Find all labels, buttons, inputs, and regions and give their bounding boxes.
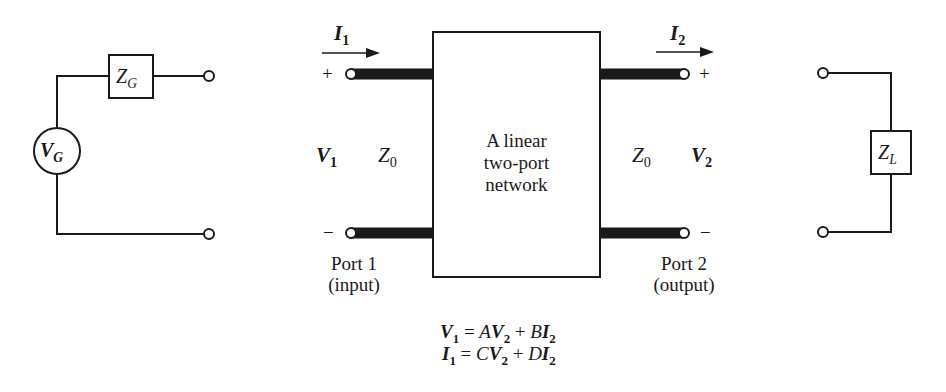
load-top-wire xyxy=(828,73,891,131)
network-text-line2: two-port xyxy=(433,152,600,174)
eq2-plus: + xyxy=(508,343,528,364)
port2-z0-label: Z0 xyxy=(632,145,651,166)
z0-symbol-2: Z xyxy=(632,143,644,167)
port1-plus: + xyxy=(322,64,333,83)
i1-sub: 1 xyxy=(342,32,349,48)
port1-minus: − xyxy=(323,223,334,242)
port2-terminal-top xyxy=(679,69,689,79)
source-terminal-bottom xyxy=(204,229,214,239)
z0-sub-1: 0 xyxy=(390,154,397,170)
port2-label: Port 2 xyxy=(638,253,730,274)
i2-sub: 2 xyxy=(678,32,685,48)
eq2-var-i2-sub: 2 xyxy=(549,353,555,368)
eq2-lhs-sub: 1 xyxy=(449,353,455,368)
source-top-wire xyxy=(57,76,109,128)
source-impedance-label: ZG xyxy=(116,66,137,86)
v2-label: V2 xyxy=(691,145,712,166)
eq1-equals: = xyxy=(459,321,479,342)
two-port-network-diagram: ZG VG I1 + − V1 Z0 Port 1 (input) A line… xyxy=(0,0,946,392)
load-terminal-top xyxy=(818,68,828,78)
eq2-equals: = xyxy=(456,343,476,364)
network-text-line3: network xyxy=(433,174,600,196)
port1-caption: Port 1 (input) xyxy=(314,253,394,295)
network-box-text: A linear two-port network xyxy=(433,130,600,196)
port1-terminal-bottom xyxy=(346,228,356,238)
generator-label: VG xyxy=(40,140,63,160)
zl-sub: L xyxy=(889,152,897,167)
eq2-coef-c: C xyxy=(476,343,489,364)
v1-sub: 1 xyxy=(330,154,337,170)
current-arrow-i2 xyxy=(656,47,714,57)
i1-symbol: I xyxy=(334,21,342,45)
equation-1: V1 = AV2 + BI2 xyxy=(440,322,556,341)
eq1-coef-a: A xyxy=(479,321,491,342)
i2-label: I2 xyxy=(670,23,685,44)
eq1-lhs: V xyxy=(440,321,453,342)
current-arrow-i1 xyxy=(322,48,380,58)
load-impedance-label: ZL xyxy=(878,142,897,162)
port1-label: Port 1 xyxy=(314,253,394,274)
v2-sub: 2 xyxy=(705,154,712,170)
v1-symbol: V xyxy=(316,143,330,167)
load-bottom-wire xyxy=(828,174,891,232)
i2-symbol: I xyxy=(670,21,678,45)
port2-sublabel: (output) xyxy=(638,274,730,295)
i1-label: I1 xyxy=(334,23,349,44)
zl-symbol: Z xyxy=(878,141,889,163)
vg-symbol: V xyxy=(40,139,53,161)
eq2-var-v2: V xyxy=(489,343,502,364)
z0-sub-2: 0 xyxy=(644,154,651,170)
load-circuit xyxy=(818,68,911,237)
port1-sublabel: (input) xyxy=(314,274,394,295)
equation-2: I1 = CV2 + DI2 xyxy=(442,344,556,363)
port1-z0-label: Z0 xyxy=(378,145,397,166)
source-terminal-top xyxy=(204,71,214,81)
eq1-plus: + xyxy=(510,321,530,342)
v2-symbol: V xyxy=(691,143,705,167)
port2-caption: Port 2 (output) xyxy=(638,253,730,295)
vg-sub: G xyxy=(53,150,63,165)
eq2-coef-d: D xyxy=(528,343,542,364)
z0-symbol-1: Z xyxy=(378,143,390,167)
zg-sub: G xyxy=(127,76,137,91)
eq2-var-v2-sub: 2 xyxy=(501,353,507,368)
v1-label: V1 xyxy=(316,145,337,166)
port2-minus: − xyxy=(700,223,711,242)
source-bottom-wire xyxy=(57,174,204,234)
eq1-coef-b: B xyxy=(530,321,542,342)
port1-terminal-top xyxy=(346,69,356,79)
eq1-var-v2: V xyxy=(491,321,504,342)
port2-plus: + xyxy=(699,64,710,83)
port2-terminal-bottom xyxy=(679,228,689,238)
load-terminal-bottom xyxy=(818,227,828,237)
zg-symbol: Z xyxy=(116,65,127,87)
network-text-line1: A linear xyxy=(433,130,600,152)
